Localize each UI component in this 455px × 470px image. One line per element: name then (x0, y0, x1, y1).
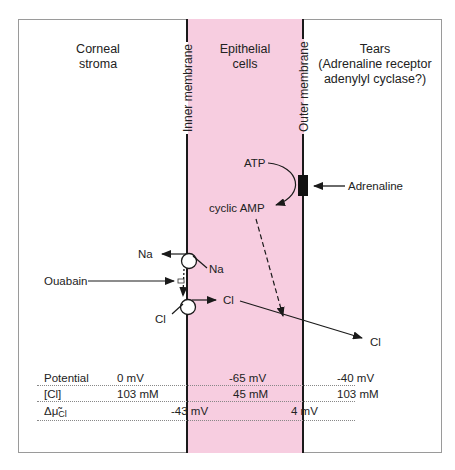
row-divider-3 (37, 420, 355, 421)
cell-potential: -65 mV (229, 372, 266, 385)
diagram-arrows (0, 0, 455, 470)
cl-tears-label: Cl (370, 336, 381, 349)
row-divider-1 (37, 385, 355, 386)
cl-mid-label: Cl (223, 294, 234, 307)
cl-concentration-row-label: [Cl] (44, 388, 61, 401)
ouabain-label: Ouabain (44, 275, 87, 288)
cell-cl-concentration: 45 mM (233, 388, 268, 401)
na-pump-circle (182, 254, 197, 269)
cl-in-label: Cl (155, 313, 166, 326)
tears-cl-concentration: 103 mM (337, 388, 379, 401)
potential-row-label: Potential (44, 372, 89, 385)
electrochemical-gradient-row-label: Δμ̃Cl (44, 405, 67, 421)
atp-to-camp-arrow (268, 163, 296, 205)
row-divider-2 (37, 401, 355, 402)
na-out-label: Na (138, 248, 153, 261)
camp-activation-arrow (256, 219, 283, 316)
adrenaline-label: Adrenaline (348, 180, 403, 193)
adrenaline-receptor-block (298, 175, 308, 196)
ouabain-site (178, 279, 184, 283)
outer-membrane-gradient: 4 mV (291, 405, 318, 418)
cl-cotransporter-circle (181, 300, 196, 315)
atp-label: ATP (244, 157, 266, 170)
stroma-cl-concentration: 103 mM (117, 388, 159, 401)
cl-secretion-arrow (240, 301, 362, 338)
inner-membrane-gradient: -43 mV (171, 405, 208, 418)
na-in-label: Na (209, 263, 224, 276)
stroma-potential: 0 mV (117, 372, 144, 385)
tears-potential: -40 mV (337, 372, 374, 385)
cyclic-amp-label: cyclic AMP (209, 202, 265, 215)
